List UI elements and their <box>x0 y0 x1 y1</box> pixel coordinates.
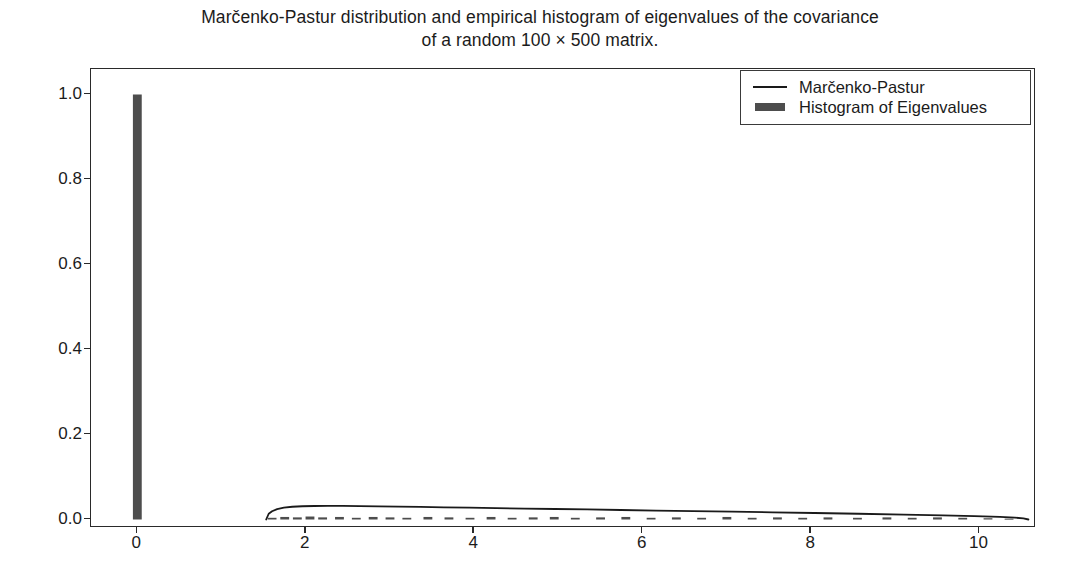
x-axis-tick-labels: 0246810 <box>90 533 1035 559</box>
histogram-bar <box>369 517 378 520</box>
x-tick-label: 10 <box>954 533 1004 553</box>
histogram-bar <box>773 517 782 519</box>
histogram-bar <box>402 518 411 520</box>
y-tick-label: 0.4 <box>24 339 82 359</box>
x-tick-label: 8 <box>785 533 835 553</box>
x-tick-label: 4 <box>448 533 498 553</box>
y-tick-label: 0.0 <box>24 509 82 529</box>
y-tick-label: 0.8 <box>24 169 82 189</box>
histogram-bar <box>798 518 807 520</box>
chart-figure: Marčenko-Pastur distribution and empiric… <box>0 0 1080 561</box>
histogram-bar <box>293 517 302 519</box>
histogram-bar <box>933 517 942 519</box>
legend-label-marcenko-pastur: Marčenko-Pastur <box>799 78 925 97</box>
histogram-bar <box>958 518 967 520</box>
histogram-bar <box>306 517 315 520</box>
histogram-bar <box>621 517 630 520</box>
histogram-bar <box>423 517 432 520</box>
legend-item-marcenko-pastur: Marčenko-Pastur <box>751 77 1020 97</box>
histogram-bar <box>352 518 361 520</box>
legend-line-icon <box>751 86 789 88</box>
histogram-bar <box>672 517 681 519</box>
histogram-bar <box>335 517 344 520</box>
histogram-bar <box>268 518 277 520</box>
histogram-bar <box>722 517 731 520</box>
histogram-bar <box>883 517 892 519</box>
histogram-bar <box>466 518 475 520</box>
legend-label-histogram: Histogram of Eigenvalues <box>799 98 987 117</box>
y-tick-label: 1.0 <box>24 84 82 104</box>
legend-item-histogram: Histogram of Eigenvalues <box>751 97 1020 117</box>
histogram-bar <box>908 518 917 520</box>
marcenko-pastur-curve <box>266 506 1028 520</box>
histogram-bars <box>133 95 1014 520</box>
histogram-bar <box>508 518 517 520</box>
histogram-bar <box>647 518 656 520</box>
histogram-bar <box>697 518 706 520</box>
histogram-bar <box>1005 519 1014 520</box>
histogram-bar <box>550 517 559 520</box>
x-tick-label: 6 <box>617 533 667 553</box>
histogram-bar <box>596 517 605 519</box>
histogram-bar <box>824 517 833 519</box>
y-tick-label: 0.2 <box>24 424 82 444</box>
plot-area <box>90 68 1035 527</box>
histogram-bar <box>853 518 862 520</box>
histogram-bar <box>529 517 538 519</box>
histogram-bar <box>984 518 993 519</box>
histogram-bar <box>133 95 142 520</box>
histogram-bar <box>571 518 580 520</box>
x-tick-label: 2 <box>280 533 330 553</box>
histogram-bar <box>386 517 395 519</box>
x-tick-label: 0 <box>111 533 161 553</box>
histogram-bar <box>445 517 454 519</box>
y-tick-label: 0.6 <box>24 254 82 274</box>
histogram-bar <box>748 518 757 520</box>
plot-canvas <box>91 69 1036 528</box>
y-axis-tick-labels: 0.00.20.40.60.81.0 <box>18 68 82 527</box>
histogram-bar <box>280 517 289 520</box>
histogram-bar <box>318 517 327 519</box>
histogram-bar <box>487 517 496 520</box>
page-title: Marčenko-Pastur distribution and empiric… <box>0 6 1080 52</box>
legend: Marčenko-Pastur Histogram of Eigenvalues <box>740 70 1031 125</box>
legend-bar-icon <box>751 103 789 111</box>
